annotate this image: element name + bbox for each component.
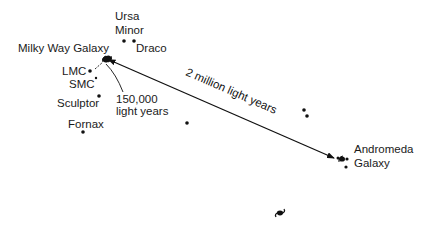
distance-large-label: 2 million light years bbox=[184, 66, 279, 116]
distance-pointer-line bbox=[106, 64, 123, 92]
draco-label: Draco bbox=[136, 42, 167, 55]
local-group-diagram: 2 million light years Ursa Minor Draco M… bbox=[0, 0, 425, 234]
galaxy-dot bbox=[302, 108, 306, 112]
distance-small-label-line2: light years bbox=[116, 105, 168, 118]
andromeda-label-line2: Galaxy bbox=[354, 157, 390, 170]
diagram-graphics: 2 million light years bbox=[0, 0, 425, 234]
smc-dot bbox=[95, 77, 97, 79]
lmc-dot bbox=[88, 69, 92, 73]
ursa-minor-label-line1: Ursa bbox=[115, 10, 139, 23]
lmc-distance-line bbox=[95, 62, 103, 69]
ursa-minor-label-line2: Minor bbox=[115, 24, 144, 37]
milky-way-galaxy-icon bbox=[102, 54, 113, 63]
ursa-minor-dot bbox=[122, 39, 126, 43]
fornax-label: Fornax bbox=[68, 118, 104, 131]
galaxy-dot bbox=[305, 114, 309, 118]
sculptor-label: Sculptor bbox=[57, 97, 99, 110]
andromeda-label-line1: Andromeda bbox=[354, 143, 413, 156]
galaxy-dot bbox=[185, 121, 189, 125]
spiral-galaxy-icon bbox=[275, 209, 284, 217]
milky-way-label: Milky Way Galaxy bbox=[18, 42, 109, 55]
smc-label: SMC bbox=[69, 78, 95, 91]
andromeda-galaxy-icon bbox=[337, 156, 349, 169]
lmc-label: LMC bbox=[62, 65, 86, 78]
